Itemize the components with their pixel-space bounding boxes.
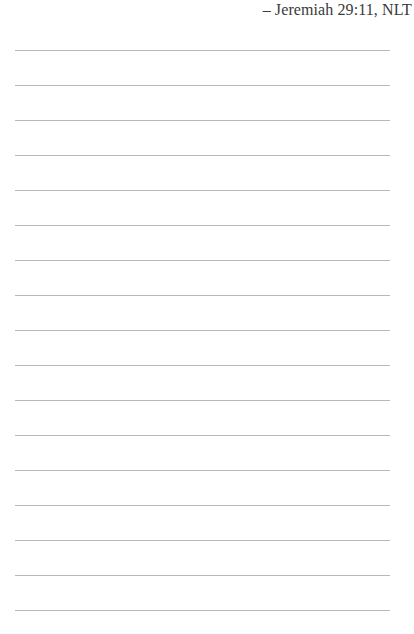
writing-line: [15, 260, 390, 261]
writing-line: [15, 400, 390, 401]
writing-line: [15, 190, 390, 191]
writing-line: [15, 540, 390, 541]
writing-line: [15, 610, 390, 611]
writing-line: [15, 155, 390, 156]
writing-line: [15, 470, 390, 471]
writing-line: [15, 120, 390, 121]
writing-line: [15, 330, 390, 331]
writing-line: [15, 575, 390, 576]
writing-line: [15, 295, 390, 296]
writing-line: [15, 50, 390, 51]
writing-line: [15, 85, 390, 86]
writing-line: [15, 365, 390, 366]
writing-line: [15, 505, 390, 506]
writing-line: [15, 225, 390, 226]
ruled-lines: [15, 0, 390, 634]
writing-line: [15, 435, 390, 436]
